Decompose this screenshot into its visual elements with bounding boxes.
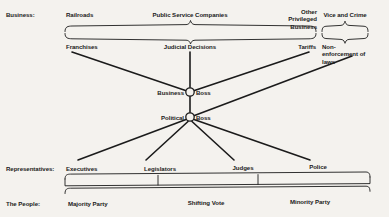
node-other-privileged-business[interactable]: Other Privileged Business <box>271 8 317 30</box>
political-boss-prefix-label: Political <box>161 114 184 121</box>
node-minority-party[interactable]: Minority Party <box>290 198 330 205</box>
business-boss-node[interactable] <box>186 88 194 96</box>
brace-vice-top <box>322 21 368 31</box>
business-boss-suffix-label: Boss <box>196 89 211 96</box>
row-label-representatives: Representatives: <box>6 165 54 172</box>
node-franchises[interactable]: Franchises <box>66 43 98 50</box>
business-boss-prefix-label: Business <box>157 89 184 96</box>
node-judicial-decisions[interactable]: Judicial Decisions <box>164 43 216 50</box>
political-boss-suffix-label: Boss <box>196 114 211 121</box>
line-tariffs-to-business-boss <box>195 52 310 91</box>
node-shifting-vote[interactable]: Shifting Vote <box>188 199 224 206</box>
node-non-enforcement-of-laws[interactable]: Non-enforcement of laws <box>322 43 367 65</box>
political-boss-node[interactable] <box>186 113 194 121</box>
node-public-service-companies[interactable]: Public Service Companies <box>152 11 227 18</box>
node-judges[interactable]: Judges <box>232 164 253 171</box>
node-tariffs[interactable]: Tariffs <box>298 43 316 50</box>
bracket-representatives <box>65 172 370 179</box>
line-nonenforcement-to-political-boss <box>195 56 353 116</box>
line-franchises-to-business-boss <box>72 52 186 91</box>
node-police[interactable]: Police <box>309 163 327 170</box>
brace-nonenforcement <box>322 34 368 44</box>
node-executives[interactable]: Executives <box>66 165 97 172</box>
node-legislators[interactable]: Legislators <box>144 165 176 172</box>
bracket-representatives-base <box>65 177 370 186</box>
row-label-people: The People: <box>6 200 40 207</box>
row-label-business: Business: <box>6 11 35 18</box>
brace-people <box>65 186 370 193</box>
line-political-boss-to-judges <box>192 122 234 161</box>
node-vice-and-crime[interactable]: Vice and Crime <box>323 11 366 18</box>
diagram-linework <box>0 0 389 217</box>
line-political-boss-to-executives <box>78 120 186 161</box>
node-majority-party[interactable]: Majority Party <box>68 200 108 207</box>
node-railroads[interactable]: Railroads <box>66 11 93 18</box>
diagram-canvas: Business: Representatives: The People: R… <box>0 0 389 217</box>
